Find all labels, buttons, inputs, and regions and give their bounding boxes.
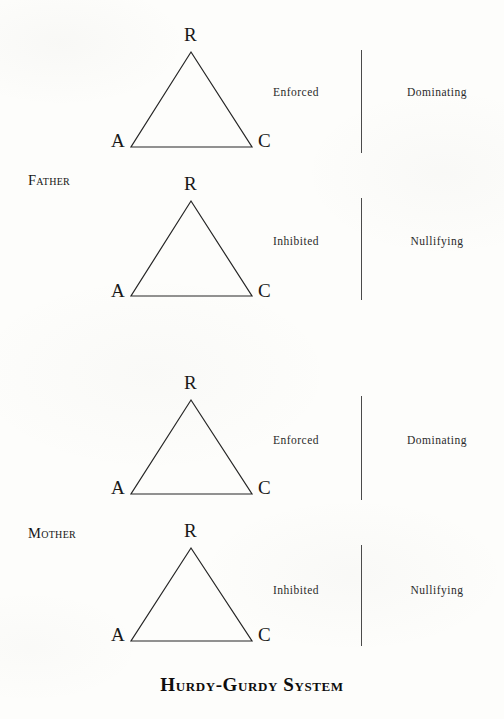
mode-label-enforced: Enforced (273, 86, 319, 98)
vertical-divider (361, 198, 362, 300)
triangle-shape-icon (131, 548, 261, 648)
triangle-vertex-label-c: C (258, 131, 271, 150)
mode-label-dominating: Dominating (407, 86, 467, 98)
mode-label-inhibited: Inhibited (273, 235, 319, 247)
triangle-father-inhibited (131, 201, 271, 311)
diagram-title: Hurdy-Gurdy System (0, 674, 504, 696)
triangle-vertex-label-r: R (184, 25, 197, 44)
triangle-vertex-label-a: A (111, 281, 125, 300)
group-label-father: Father (28, 172, 70, 189)
triangle-vertex-label-r: R (184, 174, 197, 193)
vertical-divider (361, 545, 362, 646)
triangle-vertex-label-c: C (258, 281, 271, 300)
mode-label-inhibited: Inhibited (273, 584, 319, 596)
triangle-vertex-label-r: R (184, 521, 197, 540)
triangle-vertex-label-r: R (184, 373, 197, 392)
mode-label-nullifying: Nullifying (411, 235, 464, 247)
triangle-shape-icon (131, 400, 261, 500)
triangle-father-enforced (131, 52, 271, 162)
triangle-mother-inhibited (131, 548, 271, 658)
mode-label-nullifying: Nullifying (411, 584, 464, 596)
triangle-vertex-label-c: C (258, 478, 271, 497)
vertical-divider (361, 396, 362, 500)
triangle-shape-icon (131, 52, 261, 152)
triangle-mother-enforced (131, 400, 271, 510)
vertical-divider (361, 50, 362, 153)
triangle-vertex-label-a: A (111, 131, 125, 150)
mode-label-enforced: Enforced (273, 434, 319, 446)
triangle-vertex-label-a: A (111, 478, 125, 497)
triangle-shape-icon (131, 201, 261, 301)
mode-label-dominating: Dominating (407, 434, 467, 446)
triangle-vertex-label-a: A (111, 625, 125, 644)
diagram-page: Father R A C Enforced Dominating R A C I… (0, 0, 504, 719)
group-label-mother: Mother (28, 525, 76, 542)
triangle-vertex-label-c: C (258, 625, 271, 644)
